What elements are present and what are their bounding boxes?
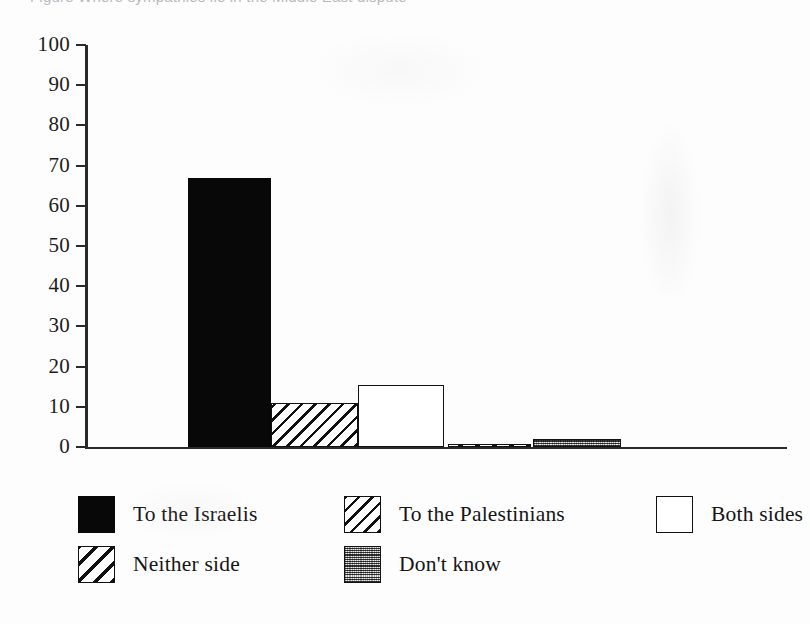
chart-plot-area: 1009080706050403020100: [0, 0, 810, 470]
legend-swatch-open-white: [656, 496, 693, 533]
legend-swatch-diagonal-hatch: [344, 496, 381, 533]
legend-swatch-solid-black: [78, 496, 115, 533]
figure-page: Figure Where sympathies lie in the Middl…: [0, 0, 810, 624]
legend-item-don-t-know: Don't know: [344, 544, 501, 584]
legend-label: Don't know: [399, 552, 501, 576]
legend-item-to-the-palestinians: To the Palestinians: [344, 494, 565, 534]
legend-row: Neither sideDon't know: [78, 544, 793, 594]
legend-label: Neither side: [133, 552, 240, 576]
legend-label: To the Palestinians: [399, 502, 565, 526]
bar-both-sides: [358, 385, 444, 447]
legend-label: To the Israelis: [133, 502, 257, 526]
legend-item-to-the-israelis: To the Israelis: [78, 494, 257, 534]
bar-to-the-palestinians: [271, 403, 358, 447]
bar-group: [0, 0, 810, 447]
bar-to-the-israelis: [188, 178, 271, 447]
chart-legend: To the IsraelisTo the PalestiniansBoth s…: [78, 494, 793, 594]
legend-swatch-gray-stipple: [344, 546, 381, 583]
legend-swatch-coarse-diagonal-hatch: [78, 546, 115, 583]
bar-neither-side: [448, 444, 531, 448]
legend-row: To the IsraelisTo the PalestiniansBoth s…: [78, 494, 793, 544]
legend-item-neither-side: Neither side: [78, 544, 240, 584]
legend-label: Both sides: [711, 502, 803, 526]
legend-item-both-sides: Both sides: [656, 494, 803, 534]
bar-don-t-know: [533, 439, 621, 447]
